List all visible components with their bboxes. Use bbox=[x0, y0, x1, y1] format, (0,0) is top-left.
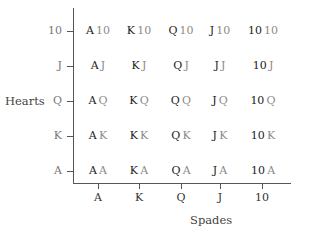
outcome-cell: K A bbox=[119, 165, 159, 177]
y-tick-mark bbox=[67, 101, 73, 102]
outcome-cell: 10 A bbox=[243, 165, 283, 177]
x-tick-mark bbox=[262, 184, 263, 189]
outcome-cell: Q A bbox=[161, 165, 201, 177]
outcome-cell: A A bbox=[78, 165, 118, 177]
outcome-cell: J J bbox=[200, 60, 240, 72]
x-tick-label: K bbox=[124, 192, 154, 204]
y-tick-label: Q bbox=[32, 95, 62, 107]
x-tick-label: J bbox=[205, 192, 235, 204]
y-tick-label: J bbox=[32, 60, 62, 72]
x-tick-label: Q bbox=[166, 192, 196, 204]
x-axis-title: Spades bbox=[190, 214, 232, 226]
x-tick-mark bbox=[139, 184, 140, 189]
y-tick-mark bbox=[67, 136, 73, 137]
outcome-cell: Q K bbox=[161, 130, 201, 142]
y-axis-line bbox=[73, 8, 74, 184]
outcome-cell: J Q bbox=[200, 95, 240, 107]
x-tick-label: A bbox=[83, 192, 113, 204]
y-tick-label: K bbox=[32, 130, 62, 142]
y-tick-mark bbox=[67, 171, 73, 172]
outcome-cell: K K bbox=[119, 130, 159, 142]
outcome-cell: J A bbox=[200, 165, 240, 177]
outcome-cell: 10 10 bbox=[243, 25, 283, 37]
outcome-cell: A K bbox=[78, 130, 118, 142]
x-tick-mark bbox=[181, 184, 182, 189]
outcome-cell: J K bbox=[200, 130, 240, 142]
x-axis-line bbox=[73, 183, 291, 184]
y-tick-mark bbox=[67, 66, 73, 67]
x-tick-mark bbox=[98, 184, 99, 189]
outcome-cell: 10 J bbox=[243, 60, 283, 72]
outcome-cell: 10 Q bbox=[243, 95, 283, 107]
y-tick-label: A bbox=[32, 165, 62, 177]
outcome-cell: K 10 bbox=[119, 25, 159, 37]
outcome-cell: J 10 bbox=[200, 25, 240, 37]
outcome-cell: A Q bbox=[78, 95, 118, 107]
outcome-cell: 10 K bbox=[243, 130, 283, 142]
outcome-cell: A J bbox=[78, 60, 118, 72]
outcome-cell: Q Q bbox=[161, 95, 201, 107]
outcome-cell: Q J bbox=[161, 60, 201, 72]
outcome-cell: K Q bbox=[119, 95, 159, 107]
outcome-cell: K J bbox=[119, 60, 159, 72]
outcome-cell: Q 10 bbox=[161, 25, 201, 37]
y-tick-mark bbox=[67, 31, 73, 32]
x-tick-label: 10 bbox=[247, 192, 277, 204]
x-tick-mark bbox=[220, 184, 221, 189]
y-tick-label: 10 bbox=[32, 25, 62, 37]
outcome-cell: A 10 bbox=[78, 25, 118, 37]
